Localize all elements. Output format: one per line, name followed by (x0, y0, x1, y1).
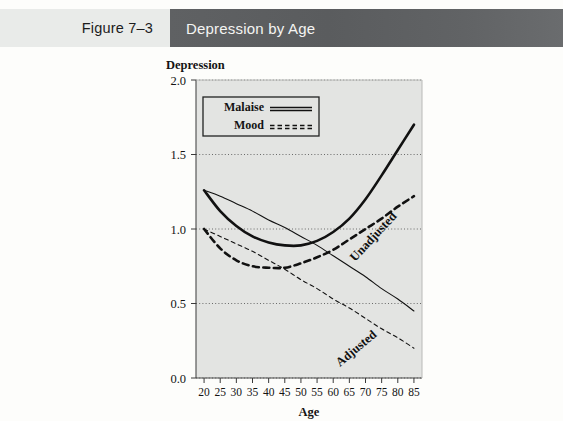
figure-number-box: Figure 7–3 (0, 9, 170, 47)
y-axis-tick-labels-group: 0.00.51.01.52.0 (170, 74, 186, 386)
y-tick-label-1.0: 1.0 (170, 223, 186, 237)
depression-by-age-line-chart: 2025303540455055606570758085 0.00.51.01.… (0, 47, 563, 421)
x-tick-label-20: 20 (198, 386, 210, 398)
y-axis-title: Depression (166, 58, 225, 72)
y-axis-ticks-group (191, 80, 196, 378)
x-tick-label-45: 45 (279, 386, 291, 398)
x-tick-label-85: 85 (408, 386, 420, 398)
x-tick-label-80: 80 (392, 386, 404, 398)
figure-title-box: Depression by Age (170, 9, 563, 47)
y-tick-label-0.0: 0.0 (170, 372, 186, 386)
x-tick-label-55: 55 (311, 386, 323, 398)
figure-title-label: Depression by Age (186, 20, 315, 37)
x-tick-label-60: 60 (327, 386, 339, 398)
x-tick-label-75: 75 (376, 386, 388, 398)
x-tick-label-25: 25 (214, 386, 226, 398)
x-axis-title: Age (299, 405, 320, 419)
x-axis-ticks-group (204, 378, 414, 383)
chart-legend: Malaise Mood (203, 97, 319, 136)
x-tick-label-70: 70 (360, 386, 372, 398)
x-tick-label-65: 65 (344, 386, 356, 398)
x-tick-label-35: 35 (247, 386, 259, 398)
figure-header-band: Figure 7–3 Depression by Age (0, 9, 563, 47)
y-tick-label-2.0: 2.0 (170, 74, 186, 88)
y-tick-label-1.5: 1.5 (170, 148, 186, 162)
x-axis-tick-labels-group: 2025303540455055606570758085 (198, 386, 420, 398)
legend-label-mood: Mood (234, 118, 264, 132)
x-tick-label-30: 30 (231, 386, 243, 398)
y-tick-label-0.5: 0.5 (170, 297, 186, 311)
figure-chart-area: 2025303540455055606570758085 0.00.51.01.… (0, 47, 563, 421)
figure-number-label: Figure 7–3 (82, 20, 153, 36)
legend-label-malaise: Malaise (224, 100, 265, 114)
x-tick-label-50: 50 (295, 386, 307, 398)
x-tick-label-40: 40 (263, 386, 275, 398)
